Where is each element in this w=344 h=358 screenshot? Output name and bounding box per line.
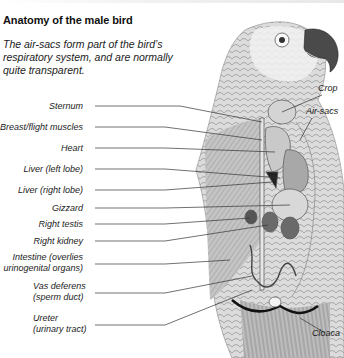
label-crop: Crop [318, 83, 338, 94]
label-cloaca: Cloaca [312, 328, 340, 339]
label-intestine: Intestine (overlies urinogenital organs) [3, 252, 83, 274]
eye-icon [275, 33, 289, 47]
label-air-sacs: Air-sacs [306, 106, 338, 117]
bird-anatomy-illustration [0, 0, 344, 358]
label-vas-deferens: Vas deferens (sperm duct) [33, 281, 86, 303]
label-intestine-line1: Intestine (overlies [3, 252, 83, 263]
label-vas-deferens-line1: Vas deferens [33, 281, 86, 292]
bird-body [196, 22, 344, 358]
label-heart: Heart [61, 143, 83, 154]
sternum [260, 118, 264, 290]
label-sternum: Sternum [49, 101, 83, 112]
label-right-kidney: Right kidney [33, 236, 83, 247]
label-liver-right-lobe: Liver (right lobe) [18, 185, 83, 196]
label-right-testis: Right testis [38, 219, 83, 230]
right-testis [245, 210, 257, 224]
label-gizzard: Gizzard [52, 203, 83, 214]
label-vas-deferens-line2: (sperm duct) [33, 292, 86, 303]
label-breast-flight-muscles: Breast/flight muscles [0, 122, 83, 133]
label-intestine-line2: urinogenital organs) [3, 263, 83, 274]
label-ureter-line2: (urinary tract) [33, 324, 87, 335]
right-kidney [262, 212, 278, 232]
label-ureter-line1: Ureter [33, 313, 87, 324]
label-ureter: Ureter (urinary tract) [33, 313, 87, 335]
label-liver-left-lobe: Liver (left lobe) [23, 164, 83, 175]
